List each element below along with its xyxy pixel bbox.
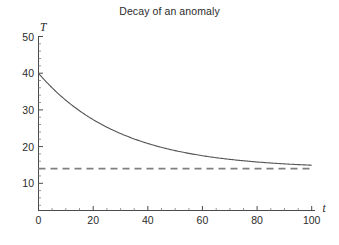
chart-plot-area: 50 40 30 20 10 0 20 40 60 80 100 T t — [0, 0, 339, 245]
y-axis-tick-labels: 50 40 30 20 10 — [22, 31, 34, 190]
chart-figure: Decay of an anomaly — [0, 0, 339, 245]
decay-curve — [39, 73, 312, 165]
y-tick-label: 40 — [22, 67, 34, 79]
x-tick-label: 60 — [197, 214, 209, 226]
y-tick-label: 20 — [22, 141, 34, 153]
y-tick-label: 10 — [22, 177, 34, 189]
x-axis-tick-labels: 0 20 40 60 80 100 — [36, 214, 321, 226]
x-tick-label: 0 — [36, 214, 42, 226]
y-axis-label: T — [40, 21, 48, 33]
x-axis-label: t — [322, 202, 326, 214]
x-tick-label: 20 — [87, 214, 99, 226]
y-tick-label: 30 — [22, 104, 34, 116]
x-tick-label: 100 — [303, 214, 321, 226]
x-tick-label: 80 — [251, 214, 263, 226]
x-tick-label: 40 — [142, 214, 154, 226]
y-tick-label: 50 — [22, 31, 34, 43]
